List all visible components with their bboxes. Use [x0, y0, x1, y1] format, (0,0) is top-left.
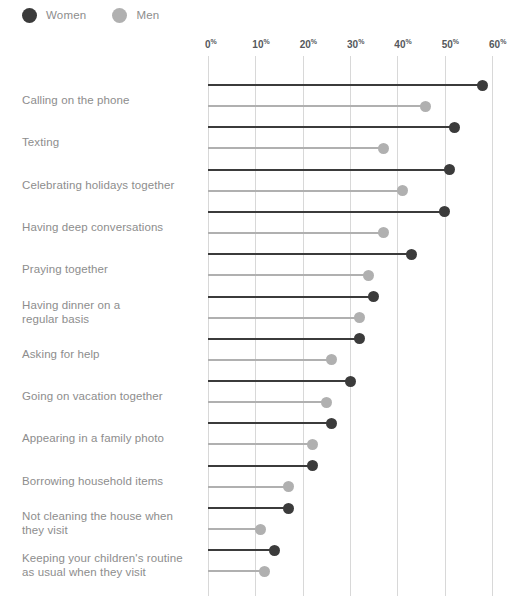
stem-men-8 [208, 443, 312, 445]
data-point-women-3[interactable] [439, 206, 450, 217]
x-tick-label-50: 50% [442, 38, 459, 50]
stem-women-4 [208, 253, 412, 255]
data-point-men-0[interactable] [420, 101, 431, 112]
stem-women-8 [208, 422, 331, 424]
stem-women-7 [208, 380, 350, 382]
category-label-0: Calling on the phone [22, 93, 202, 107]
data-point-women-9[interactable] [307, 460, 318, 471]
stem-men-4 [208, 274, 369, 276]
legend-item-men: Men [112, 8, 159, 23]
x-tick-label-0: 0% [205, 38, 217, 50]
data-point-men-6[interactable] [326, 354, 337, 365]
stem-men-3 [208, 232, 383, 234]
gridline-0 [208, 56, 209, 596]
gridline-60 [492, 56, 493, 596]
stem-women-10 [208, 507, 288, 509]
category-label-4: Praying together [22, 262, 202, 276]
data-point-men-9[interactable] [283, 481, 294, 492]
data-point-women-8[interactable] [326, 418, 337, 429]
stem-men-11 [208, 570, 265, 572]
legend-label-men: Men [136, 9, 159, 21]
data-point-women-0[interactable] [477, 80, 488, 91]
stem-women-1 [208, 126, 454, 128]
category-label-9: Borrowing household items [22, 474, 202, 488]
data-point-women-2[interactable] [444, 164, 455, 175]
data-point-women-4[interactable] [406, 249, 417, 260]
category-label-7: Going on vacation together [22, 389, 202, 403]
x-tick-label-30: 30% [347, 38, 364, 50]
stem-women-5 [208, 296, 374, 298]
stem-women-0 [208, 84, 483, 86]
stem-men-1 [208, 147, 383, 149]
data-point-men-2[interactable] [397, 185, 408, 196]
category-label-5: Having dinner on aregular basis [22, 298, 202, 326]
gridline-20 [303, 56, 304, 596]
stem-men-10 [208, 528, 260, 530]
data-point-men-11[interactable] [259, 566, 270, 577]
stem-men-5 [208, 317, 359, 319]
data-point-women-7[interactable] [345, 376, 356, 387]
data-point-men-8[interactable] [307, 439, 318, 450]
stem-men-2 [208, 190, 402, 192]
stem-men-0 [208, 105, 426, 107]
category-label-1: Texting [22, 135, 202, 149]
data-point-men-7[interactable] [321, 397, 332, 408]
legend-label-women: Women [46, 9, 86, 21]
stem-men-7 [208, 401, 326, 403]
data-point-men-5[interactable] [354, 312, 365, 323]
stem-men-6 [208, 359, 331, 361]
data-point-women-5[interactable] [368, 291, 379, 302]
data-point-men-4[interactable] [363, 270, 374, 281]
lollipop-chart: 0%10%20%30%40%50%60% Calling on the phon… [0, 36, 513, 597]
x-tick-label-40: 40% [394, 38, 411, 50]
legend-swatch-men [112, 8, 127, 23]
category-label-3: Having deep conversations [22, 220, 202, 234]
stem-women-11 [208, 549, 274, 551]
gridline-10 [255, 56, 256, 596]
x-tick-label-60: 60% [489, 38, 506, 50]
data-point-women-1[interactable] [449, 122, 460, 133]
plot-area: 0%10%20%30%40%50%60% [208, 56, 493, 597]
gridline-50 [445, 56, 446, 596]
x-tick-label-10: 10% [252, 38, 269, 50]
category-label-8: Appearing in a family photo [22, 431, 202, 445]
chart-legend: Women Men [0, 0, 159, 30]
category-label-10: Not cleaning the house whenthey visit [22, 509, 202, 537]
stem-women-6 [208, 338, 359, 340]
data-point-men-1[interactable] [378, 143, 389, 154]
data-point-women-11[interactable] [269, 545, 280, 556]
data-point-men-3[interactable] [378, 227, 389, 238]
stem-women-3 [208, 211, 445, 213]
legend-item-women: Women [22, 8, 86, 23]
stem-women-2 [208, 169, 449, 171]
stem-men-9 [208, 486, 288, 488]
gridline-30 [350, 56, 351, 596]
data-point-men-10[interactable] [255, 524, 266, 535]
category-label-2: Celebrating holidays together [22, 178, 202, 192]
stem-women-9 [208, 465, 312, 467]
category-label-11: Keeping your children's routineas usual … [22, 551, 202, 579]
legend-swatch-women [22, 8, 37, 23]
x-tick-label-20: 20% [300, 38, 317, 50]
category-label-6: Asking for help [22, 347, 202, 361]
data-point-women-6[interactable] [354, 333, 365, 344]
data-point-women-10[interactable] [283, 503, 294, 514]
gridline-40 [397, 56, 398, 596]
